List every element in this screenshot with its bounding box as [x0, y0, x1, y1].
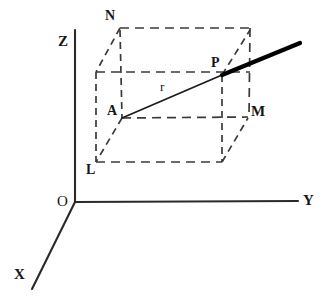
diagram-svg	[0, 0, 323, 299]
axis-label-x: X	[14, 267, 25, 282]
edge-a-to-l-diagonal	[96, 118, 122, 162]
vertex-label-a: A	[107, 104, 117, 118]
axis-label-z: Z	[58, 34, 68, 49]
x-axis-line	[32, 202, 75, 289]
axes-group	[32, 30, 298, 289]
vertex-label-l: L	[86, 163, 95, 177]
edge-a-to-m-horizontal	[122, 117, 248, 118]
vertex-label-m: M	[251, 104, 265, 119]
radius-segment-a-to-p	[122, 75, 222, 118]
axis-label-origin: O	[57, 194, 68, 209]
vertex-label-p: P	[211, 56, 220, 70]
y-axis-line	[75, 201, 298, 202]
ray-extension-p-outward	[222, 43, 300, 75]
axis-label-y: Y	[303, 193, 314, 208]
radius-length-label: r	[160, 80, 164, 93]
edge-bottom-right-to-m-diagonal	[222, 118, 248, 162]
figure-canvas: N P A M L r Z Y X O	[0, 0, 323, 299]
edge-left-front-vertical	[120, 30, 122, 118]
edge-n-upper-left-diagonal	[96, 28, 120, 72]
dashed-box-group	[96, 28, 250, 162]
vertex-label-n: N	[105, 9, 115, 23]
